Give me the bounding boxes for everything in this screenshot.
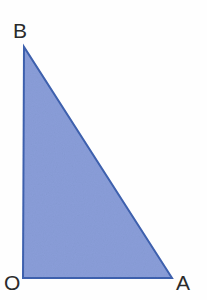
triangle-polygon (23, 47, 172, 278)
triangle-shape (0, 0, 207, 300)
vertex-label-a: A (176, 272, 190, 293)
vertex-label-o: O (4, 272, 20, 293)
figure-canvas: B O A (0, 0, 207, 300)
vertex-label-b: B (13, 20, 27, 41)
